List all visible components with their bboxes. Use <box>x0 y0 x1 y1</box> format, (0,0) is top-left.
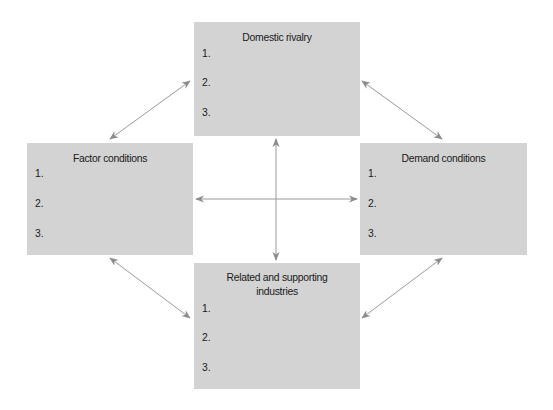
list-item: 2. <box>35 197 44 209</box>
arrow-factor-related <box>110 258 190 318</box>
list-item: 3. <box>202 361 211 373</box>
box-title-line2: industries <box>202 284 351 298</box>
list-item: 3. <box>35 227 44 239</box>
list-item: 1. <box>35 167 44 179</box>
arrow-rivalry-factor <box>110 81 190 139</box>
list-item: 3. <box>202 106 211 118</box>
list-item: 1. <box>202 47 211 59</box>
box-title: Demand conditions <box>368 151 518 165</box>
list-item: 1. <box>368 167 377 179</box>
list-item: 3. <box>368 227 377 239</box>
box-domestic-rivalry: Domestic rivalry 1. 2. 3. <box>194 22 360 136</box>
box-factor-conditions: Factor conditions 1. 2. 3. <box>27 143 193 255</box>
box-title-line1: Related and supporting <box>202 270 351 284</box>
list-item: 2. <box>202 76 211 88</box>
box-title: Factor conditions <box>35 151 184 165</box>
box-related-supporting-industries: Related and supporting industries 1. 2. … <box>194 263 360 389</box>
list-item: 2. <box>368 197 377 209</box>
box-demand-conditions: Demand conditions 1. 2. 3. <box>360 143 527 255</box>
list-item: 1. <box>202 302 211 314</box>
arrow-rivalry-demand <box>362 81 442 139</box>
box-title: Domestic rivalry <box>202 30 351 44</box>
list-item: 2. <box>202 331 211 343</box>
arrow-demand-related <box>362 258 442 318</box>
